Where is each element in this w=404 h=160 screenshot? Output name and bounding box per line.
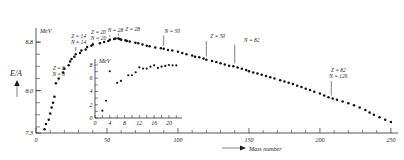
data-point	[300, 86, 303, 89]
data-point	[323, 94, 326, 97]
inset-y-tick-label: 0	[90, 115, 93, 121]
data-point	[390, 121, 393, 124]
annotation-label-bottom: N = 14	[70, 39, 87, 45]
data-point	[73, 55, 76, 58]
inset-data-point	[127, 74, 129, 76]
data-point	[52, 101, 55, 104]
data-point	[126, 40, 129, 43]
data-point	[80, 49, 83, 52]
data-point	[53, 95, 56, 98]
data-point	[202, 57, 205, 60]
data-point	[103, 41, 106, 44]
data-point	[241, 68, 244, 71]
data-point	[260, 74, 263, 77]
data-point	[378, 116, 381, 119]
data-point	[171, 49, 174, 52]
data-point	[232, 65, 235, 68]
data-point	[245, 69, 248, 72]
inset-data-point	[164, 65, 166, 67]
data-point	[45, 123, 48, 126]
data-point	[269, 76, 272, 79]
inset-data-point	[135, 71, 137, 73]
inset-x-tick-label: 20	[166, 120, 172, 126]
data-point	[236, 66, 239, 69]
inset-y-tick-label: 8	[90, 62, 93, 68]
light-nuclei-inset: MeV 02468 048121620	[80, 56, 184, 126]
data-point	[191, 54, 194, 57]
data-point	[358, 106, 361, 109]
annotation-label-bottom: N = 20	[90, 35, 107, 41]
data-point	[313, 91, 316, 94]
data-point	[287, 81, 290, 84]
annotation-label-top: N = 28	[107, 27, 124, 33]
data-point	[134, 41, 137, 44]
data-point	[86, 46, 89, 49]
inset-x-tick-label: 8	[123, 120, 126, 126]
data-point	[373, 114, 376, 117]
data-point	[384, 118, 387, 121]
data-point	[336, 98, 339, 101]
annotation-label-bottom: N = 126	[328, 73, 347, 79]
inset-data-point	[109, 70, 111, 72]
data-point	[283, 80, 286, 83]
x-axis-arrow-head-icon	[240, 145, 246, 150]
annotation-label-top: Z = 28	[125, 26, 140, 32]
data-point	[154, 46, 157, 49]
data-point	[256, 72, 259, 75]
data-point	[48, 118, 51, 121]
data-point	[145, 45, 148, 48]
inset-x-tick-label: 12	[136, 120, 142, 126]
inset-data-point	[116, 82, 118, 84]
data-point	[114, 37, 117, 40]
chart-canvas: 8.88.07.3 050100150200250 MeV E/A Mass n…	[0, 0, 404, 160]
inset-data-point	[105, 100, 107, 102]
data-point	[265, 75, 268, 78]
main-x-tick-label: 50	[104, 137, 110, 143]
inset-data-point	[131, 74, 133, 76]
main-y-axis-title: E/A	[9, 69, 22, 78]
data-point	[304, 88, 307, 91]
data-point	[296, 84, 299, 87]
data-point	[148, 45, 151, 48]
data-point	[353, 104, 356, 107]
inset-data-point	[120, 80, 122, 82]
data-point	[368, 111, 371, 114]
data-point	[219, 62, 222, 65]
annotation-label-top: N = 82	[243, 37, 260, 43]
data-point	[205, 58, 208, 61]
data-point	[347, 102, 350, 105]
inset-data-point	[149, 66, 151, 68]
annotation-label-bottom: N = 8	[51, 71, 65, 77]
main-y-tick-label: 8.8	[26, 39, 34, 45]
data-point	[341, 100, 344, 103]
inset-data-point	[172, 64, 174, 66]
inset-x-tick-label: 4	[108, 120, 111, 126]
main-x-tick-label: 200	[315, 137, 324, 143]
data-point	[163, 48, 166, 51]
annotation-label-top: N = 50	[164, 28, 181, 34]
main-x-tick-group: 050100150200250	[35, 128, 396, 143]
data-point	[215, 61, 218, 64]
data-point	[120, 38, 123, 41]
inset-data-point	[175, 64, 177, 66]
data-point	[252, 71, 255, 74]
data-point	[137, 42, 140, 45]
data-point	[55, 82, 58, 85]
data-point	[167, 49, 170, 52]
data-point	[181, 52, 184, 55]
inset-y-tick-label: 2	[90, 102, 93, 108]
data-point	[50, 106, 53, 109]
inset-y-tick-label: 4	[90, 88, 93, 94]
main-x-tick-label: 250	[386, 137, 395, 143]
main-x-axis-title-group: Mass number	[222, 145, 282, 151]
data-point	[74, 53, 77, 56]
data-point	[364, 109, 367, 112]
data-point	[141, 43, 144, 46]
data-point	[279, 79, 282, 82]
data-point	[43, 128, 46, 131]
main-x-tick-label: 100	[173, 137, 182, 143]
main-x-tick-label: 150	[244, 137, 253, 143]
data-point	[194, 55, 197, 58]
data-point	[228, 64, 231, 67]
inset-data-point	[142, 68, 144, 70]
